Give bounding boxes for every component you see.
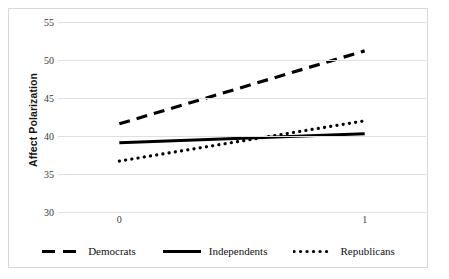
y-tick-label: 50 (28, 55, 54, 66)
gridline (58, 22, 426, 23)
gridline (58, 174, 426, 175)
gridline (58, 212, 426, 213)
plot-area (58, 22, 426, 212)
x-tick-label: 1 (362, 214, 367, 225)
legend-swatch-dashed-icon (41, 246, 81, 257)
legend-label: Independents (209, 245, 268, 257)
y-tick-label: 35 (28, 169, 54, 180)
legend-item-democrats[interactable]: Democrats (41, 245, 136, 257)
x-tick-label: 0 (117, 214, 122, 225)
gridline (58, 60, 426, 61)
gridline (58, 98, 426, 99)
y-tick-label: 55 (28, 17, 54, 28)
y-axis-tick-labels: 555045403530 (22, 22, 54, 212)
y-tick-label: 45 (28, 93, 54, 104)
series-line-democrats (119, 51, 364, 124)
gridline (58, 136, 426, 137)
legend-item-independents[interactable]: Independents (162, 245, 268, 257)
chart-figure: Affect Polarization 555045403530 01 Demo… (0, 0, 449, 279)
legend-swatch-dotted-icon (293, 246, 333, 257)
legend-item-republicans[interactable]: Republicans (293, 245, 394, 257)
series-layer (58, 22, 426, 212)
x-axis-tick-labels: 01 (58, 214, 426, 232)
y-tick-label: 30 (28, 207, 54, 218)
legend-swatch-solid-icon (162, 246, 202, 257)
y-tick-label: 40 (28, 131, 54, 142)
chart-legend: DemocratsIndependentsRepublicans (8, 240, 428, 262)
legend-label: Democrats (88, 245, 136, 257)
legend-label: Republicans (340, 245, 394, 257)
